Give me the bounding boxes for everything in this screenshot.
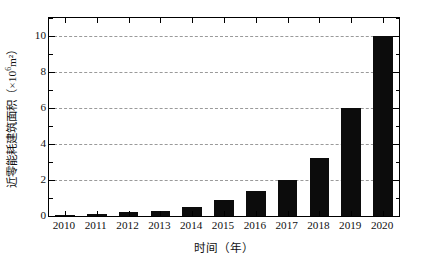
y-tick-minor-9 — [49, 54, 53, 55]
y-axis-tick-labels: 0246810 — [22, 0, 46, 265]
x-tick-label-2014: 2014 — [180, 219, 202, 231]
gridline-y-8 — [49, 72, 399, 73]
x-tick-2016 — [256, 211, 257, 216]
y-tick-minor-3 — [49, 162, 53, 163]
y-tick-minor-5 — [49, 126, 53, 127]
y-tick-minor-7 — [396, 90, 400, 91]
y-tick-label-4: 4 — [22, 137, 46, 149]
x-tick-label-2012: 2012 — [116, 219, 138, 231]
x-tick-2011 — [97, 211, 98, 216]
y-tick-major-4 — [49, 144, 55, 145]
x-tick-2017 — [288, 211, 289, 216]
x-tick-label-2019: 2019 — [339, 219, 361, 231]
y-tick-label-10: 10 — [22, 29, 46, 41]
x-tick-top-2017 — [288, 18, 289, 23]
x-tick-label-2016: 2016 — [244, 219, 266, 231]
y-tick-minor-7 — [49, 90, 53, 91]
x-tick-label-2010: 2010 — [53, 219, 75, 231]
x-tick-top-2018 — [319, 18, 320, 23]
x-tick-2015 — [224, 211, 225, 216]
y-tick-minor-3 — [396, 162, 400, 163]
x-tick-top-2019 — [351, 18, 352, 23]
y-tick-minor-11 — [49, 18, 53, 19]
bar-chart-figure: 近零能耗建筑面积（×106m²） 0246810 201020112012201… — [0, 0, 421, 265]
x-tick-2019 — [351, 211, 352, 216]
y-tick-major-2 — [49, 180, 55, 181]
x-axis-title: 时间（年） — [48, 239, 400, 255]
x-axis-tick-labels: 2010201120122013201420152016201720182019… — [48, 219, 400, 237]
y-axis-title-prefix: 近零能耗建筑面积（×10 — [6, 71, 18, 188]
y-tick-label-0: 0 — [22, 209, 46, 221]
x-tick-label-2013: 2013 — [148, 219, 170, 231]
y-axis-title: 近零能耗建筑面积（×106m²） — [7, 44, 18, 188]
x-tick-label-2011: 2011 — [85, 219, 107, 231]
gridline-y-10 — [49, 36, 399, 37]
y-tick-major-10 — [393, 36, 399, 37]
x-tick-2012 — [129, 211, 130, 216]
y-tick-minor-1 — [396, 198, 400, 199]
x-tick-label-2018: 2018 — [307, 219, 329, 231]
y-tick-major-8 — [393, 72, 399, 73]
x-tick-top-2012 — [129, 18, 130, 23]
x-tick-2010 — [65, 211, 66, 216]
y-tick-minor-9 — [396, 54, 400, 55]
x-tick-2014 — [192, 211, 193, 216]
y-tick-major-6 — [49, 108, 55, 109]
x-tick-top-2016 — [256, 18, 257, 23]
bar-2019 — [341, 108, 361, 216]
y-tick-major-2 — [393, 180, 399, 181]
x-tick-2018 — [319, 211, 320, 216]
y-tick-minor-1 — [49, 198, 53, 199]
x-tick-top-2011 — [97, 18, 98, 23]
x-tick-2020 — [383, 211, 384, 216]
y-tick-label-6: 6 — [22, 101, 46, 113]
plot-inner — [49, 18, 399, 216]
bar-2020 — [373, 36, 393, 216]
x-tick-label-2020: 2020 — [371, 219, 393, 231]
x-tick-top-2014 — [192, 18, 193, 23]
x-tick-label-2015: 2015 — [212, 219, 234, 231]
y-tick-major-4 — [393, 144, 399, 145]
x-tick-top-2010 — [65, 18, 66, 23]
x-tick-top-2013 — [160, 18, 161, 23]
y-axis-title-exponent: 6 — [5, 67, 14, 71]
y-axis-title-suffix: m²） — [6, 44, 18, 67]
y-tick-label-8: 8 — [22, 65, 46, 77]
y-tick-major-6 — [393, 108, 399, 109]
x-tick-label-2017: 2017 — [275, 219, 297, 231]
x-tick-top-2015 — [224, 18, 225, 23]
y-tick-label-2: 2 — [22, 173, 46, 185]
y-tick-minor-5 — [396, 126, 400, 127]
bar-2018 — [310, 158, 330, 216]
plot-area — [48, 17, 400, 217]
y-tick-minor-11 — [396, 18, 400, 19]
x-tick-top-2020 — [383, 18, 384, 23]
y-tick-major-8 — [49, 72, 55, 73]
x-tick-2013 — [160, 211, 161, 216]
y-tick-major-10 — [49, 36, 55, 37]
